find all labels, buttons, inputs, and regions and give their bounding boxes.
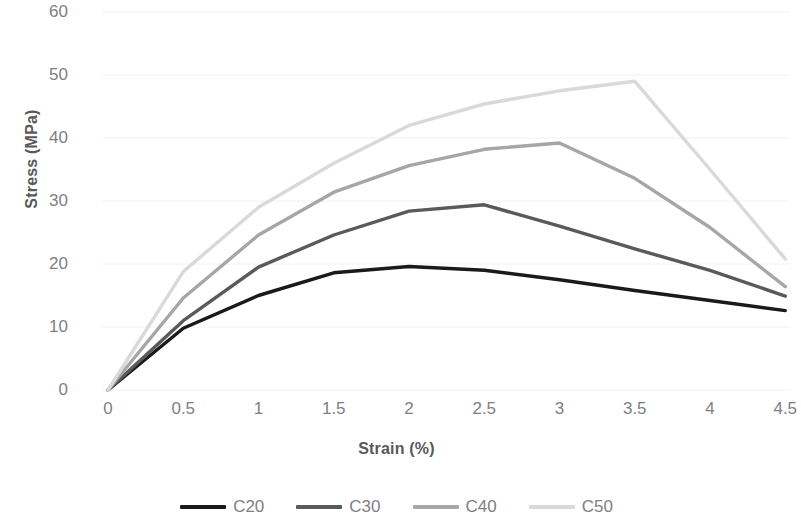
legend-label: C30 bbox=[349, 498, 380, 515]
legend-swatch-icon bbox=[180, 505, 226, 509]
y-tick-label: 20 bbox=[24, 255, 68, 272]
legend-label: C40 bbox=[466, 498, 497, 515]
y-tick-label: 10 bbox=[24, 318, 68, 335]
series-line-c30 bbox=[108, 205, 785, 390]
x-tick-label: 0 bbox=[78, 400, 138, 417]
x-tick-label: 4 bbox=[680, 400, 740, 417]
legend-swatch-icon bbox=[413, 505, 459, 509]
legend-item-c30[interactable]: C30 bbox=[296, 498, 380, 515]
y-tick-label: 30 bbox=[24, 192, 68, 209]
x-tick-label: 3.5 bbox=[605, 400, 665, 417]
series-lines bbox=[108, 81, 785, 390]
x-tick-label: 2.5 bbox=[454, 400, 514, 417]
legend-swatch-icon bbox=[296, 505, 342, 509]
legend-swatch-icon bbox=[529, 505, 575, 509]
x-tick-label: 0.5 bbox=[153, 400, 213, 417]
legend-label: C50 bbox=[582, 498, 613, 515]
x-axis-tick-labels: 00.511.522.533.544.5 bbox=[0, 400, 793, 426]
gridlines bbox=[102, 12, 790, 390]
y-tick-label: 0 bbox=[24, 381, 68, 398]
series-line-c40 bbox=[108, 143, 785, 390]
y-tick-label: 40 bbox=[24, 129, 68, 146]
chart-legend: C20C30C40C50 bbox=[0, 498, 793, 515]
legend-item-c40[interactable]: C40 bbox=[413, 498, 497, 515]
y-axis-tick-labels: 0102030405060 bbox=[20, 0, 68, 420]
legend-label: C20 bbox=[233, 498, 264, 515]
x-tick-label: 1.5 bbox=[304, 400, 364, 417]
x-axis-title: Strain (%) bbox=[0, 440, 793, 458]
series-line-c20 bbox=[108, 267, 785, 391]
legend-item-c20[interactable]: C20 bbox=[180, 498, 264, 515]
y-tick-label: 60 bbox=[24, 3, 68, 20]
x-tick-label: 1 bbox=[229, 400, 289, 417]
legend-item-c50[interactable]: C50 bbox=[529, 498, 613, 515]
x-tick-label: 2 bbox=[379, 400, 439, 417]
series-line-c50 bbox=[108, 81, 785, 390]
x-tick-label: 3 bbox=[530, 400, 590, 417]
y-tick-label: 50 bbox=[24, 66, 68, 83]
x-tick-label: 4.5 bbox=[755, 400, 801, 417]
